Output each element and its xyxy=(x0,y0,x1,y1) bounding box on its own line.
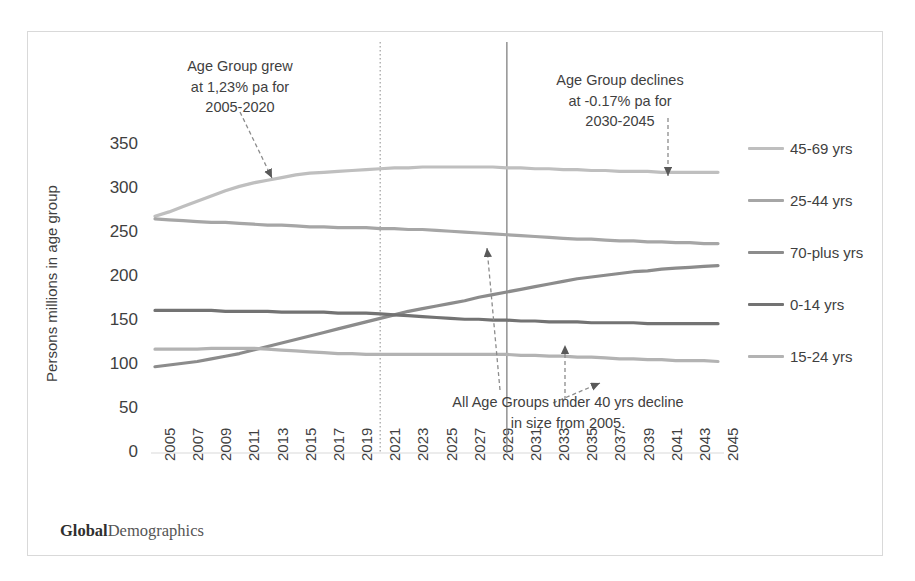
brand-bold-text: Global xyxy=(60,521,108,540)
annotation-under-40: All Age Groups under 40 yrs decline in s… xyxy=(448,392,688,433)
series-line-45-69-yrs xyxy=(155,167,718,216)
annotation-arrow-growth xyxy=(240,112,272,178)
annotation-growth: Age Group grew at 1,23% pa for 2005-2020 xyxy=(160,56,320,118)
chart-plot-area xyxy=(0,0,915,581)
series-line-25-44-yrs xyxy=(155,219,718,244)
brand-watermark: GlobalDemographics xyxy=(60,521,204,541)
annotation-decline: Age Group declines at -0.17% pa for 2030… xyxy=(530,70,710,132)
series-line-0-14-yrs xyxy=(155,310,718,323)
brand-regular-text: Demographics xyxy=(108,521,204,540)
